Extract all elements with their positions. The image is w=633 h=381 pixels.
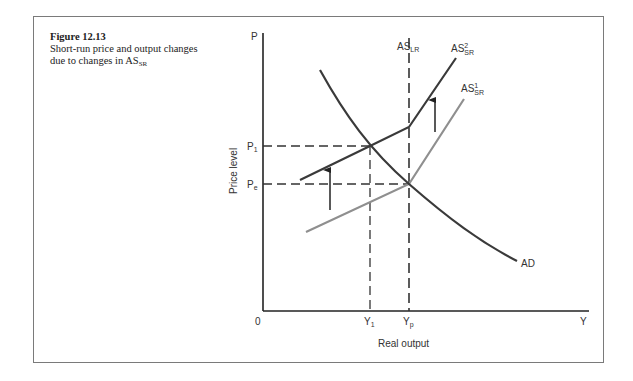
x-axis-title: Real output [378,338,429,349]
ad-curve [320,70,517,261]
as-sr2-label: AS2SR [451,42,474,56]
tick-yp: Yp [403,316,414,329]
y-axis-title: Price level [228,148,239,194]
tick-pe: Pe [247,179,258,191]
x-axis-label: Y [580,316,587,327]
as-sr1-label: AS1SR [461,82,484,96]
as-lr-label: ASLR [397,41,419,53]
tick-p1: P1 [247,141,258,153]
y-axis-label: P [251,31,258,42]
ad-label: AD [521,258,535,269]
tick-y1: Y1 [364,316,375,328]
diagram-svg: P Y 0 Real output Price level P1 Pe Y1 Y… [0,0,633,381]
origin-label: 0 [255,316,261,327]
